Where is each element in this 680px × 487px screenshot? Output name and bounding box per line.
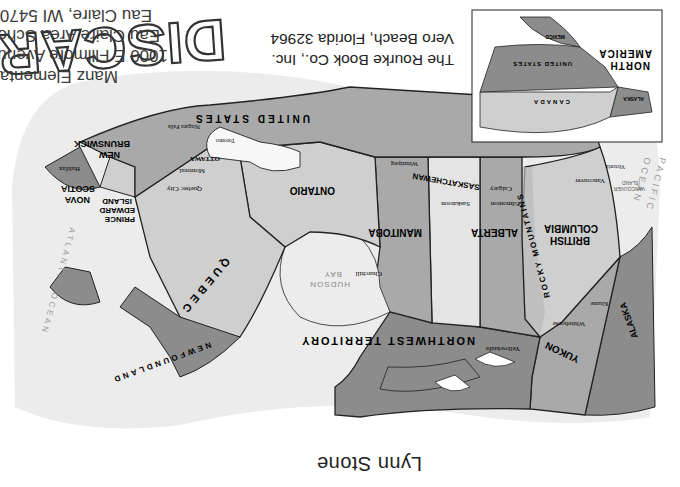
city-edmonton: Edmonton [490, 200, 520, 208]
label-hudson-1: HUDSON [309, 280, 350, 289]
publisher-address: Vero Beach, Florida 32964 [270, 30, 454, 48]
city-kluane: Kluane [590, 301, 608, 307]
label-alberta: ALBERTA [471, 227, 518, 238]
label-united-states: UNITED STATES [193, 113, 310, 124]
city-quebec-city: Quebec City [166, 185, 202, 193]
city-niagara: Niagara Falls [167, 124, 200, 130]
inset-map: CANADA UNITED STATES MEXICO ALASKA NORTH… [472, 10, 662, 142]
inset-label-mexico: MEXICO [545, 34, 565, 40]
city-winnipeg: Winnipeg [390, 160, 418, 168]
city-vancouver: Vancouver [574, 177, 605, 185]
city-halifax: Halifax [59, 165, 80, 173]
label-manitoba: MANITOBA [368, 227, 422, 238]
city-whitehorse: Whitehorse [553, 320, 585, 328]
inset-label-alaska: ALASKA [623, 96, 644, 102]
inset-label-canada: CANADA [532, 99, 570, 105]
publisher-name: The Rourke Book Co., Inc. [271, 51, 454, 69]
inset-title-2: AMERICA [598, 48, 652, 59]
label-nova-scotia-1: NOVA [64, 195, 90, 205]
city-ottawa: OTTAWA [190, 155, 220, 163]
city-toronto: Toronto [216, 138, 235, 144]
stamp-district: Eau Claire Area Schools [0, 25, 160, 45]
city-yellowknife: Yellowknife [486, 345, 520, 353]
label-hudson-2: BAY [324, 270, 342, 279]
label-pei-1: PRINCE [104, 215, 135, 224]
city-saskatoon: Saskatoon [441, 200, 470, 208]
label-vancouver-island-2: ISLAND [622, 180, 640, 186]
label-bc-1: BRITISH [550, 235, 590, 246]
inset-label-us: UNITED STATES [512, 61, 572, 67]
label-bc-2: COLUMBIA [544, 223, 598, 234]
library-stamp: DISCARD Manz Elementary 1000 E Fillmore … [0, 0, 238, 95]
label-nova-scotia-2: SCOTIA [60, 184, 95, 194]
label-pei-2: EDWARD [99, 206, 135, 215]
city-churchill: Churchill [356, 270, 382, 278]
label-vancouver-island-1: VANCOUVER [613, 186, 645, 192]
city-calgary: Calgary [489, 185, 512, 193]
label-pei-3: ISLAND [102, 197, 132, 206]
stamp-street: 1000 E Fillmore Avenue [0, 45, 168, 65]
label-nwt: NORTHWEST TERRITORY [300, 335, 475, 347]
label-new-brunswick-1: NEW [98, 150, 120, 160]
book-page: Lynn Stone [0, 0, 680, 487]
city-victoria: Victoria [605, 164, 625, 170]
label-ontario: ONTARIO [289, 185, 335, 196]
city-montreal: Montreal [179, 167, 205, 175]
inset-title-1: NORTH [609, 60, 650, 71]
stamp-school-name: Manz Elementary [0, 66, 118, 86]
stamp-city: Eau Claire, WI 54701 [0, 5, 152, 25]
label-new-brunswick-2: BRUNSWICK [74, 139, 130, 149]
